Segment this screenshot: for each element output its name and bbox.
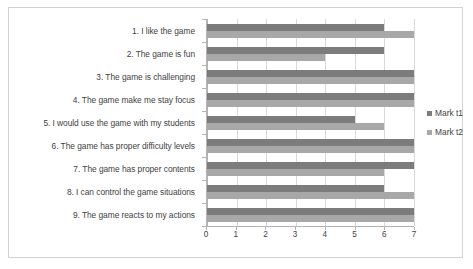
bar-t1 bbox=[207, 162, 414, 169]
bar-t2 bbox=[207, 54, 325, 61]
bar-group bbox=[207, 88, 414, 111]
bar-t1 bbox=[207, 24, 384, 31]
legend-item[interactable]: Mark t1 bbox=[427, 108, 473, 118]
bar-t2 bbox=[207, 169, 384, 176]
legend-item[interactable]: Mark t2 bbox=[427, 127, 473, 137]
legend-swatch-icon bbox=[427, 111, 432, 116]
bar-group bbox=[207, 42, 414, 65]
bar-t1 bbox=[207, 47, 384, 54]
bar-group bbox=[207, 157, 414, 180]
bar-t1 bbox=[207, 116, 355, 123]
bar-group bbox=[207, 203, 414, 226]
category-label: 6. The game has proper difficulty levels bbox=[11, 134, 200, 157]
chart-body: 1. I like the game2. The game is fun3. T… bbox=[9, 8, 462, 257]
bar-t1 bbox=[207, 70, 414, 77]
category-axis-labels: 1. I like the game2. The game is fun3. T… bbox=[11, 19, 200, 226]
category-label: 7. The game has proper contents bbox=[11, 157, 200, 180]
x-tick-label: 2 bbox=[263, 230, 268, 239]
x-tick-label: 3 bbox=[293, 230, 298, 239]
bar-t1 bbox=[207, 139, 414, 146]
x-tick-label: 0 bbox=[204, 230, 209, 239]
category-label: 8. I can control the game situations bbox=[11, 180, 200, 203]
bar-group bbox=[207, 65, 414, 88]
bar-t1 bbox=[207, 208, 414, 215]
bar-t2 bbox=[207, 192, 414, 199]
category-label: 9. The game reacts to my actions bbox=[11, 203, 200, 226]
gridline bbox=[414, 19, 415, 226]
chart-legend: Mark t1Mark t2 bbox=[427, 108, 473, 137]
x-tick-label: 4 bbox=[323, 230, 328, 239]
category-label: 3. The game is challenging bbox=[11, 65, 200, 88]
legend-swatch-icon bbox=[427, 130, 432, 135]
bar-t2 bbox=[207, 100, 414, 107]
bar-group bbox=[207, 134, 414, 157]
plot-area bbox=[206, 19, 414, 226]
bar-group bbox=[207, 19, 414, 42]
x-tick-label: 1 bbox=[233, 230, 238, 239]
category-label: 4. The game make me stay focus bbox=[11, 88, 200, 111]
x-tick-label: 5 bbox=[352, 230, 357, 239]
bar-t2 bbox=[207, 215, 414, 222]
bar-t2 bbox=[207, 77, 414, 84]
x-axis-tick-labels: 01234567 bbox=[206, 230, 414, 244]
category-label: 5. I would use the game with my students bbox=[11, 111, 200, 134]
bar-group bbox=[207, 111, 414, 134]
category-label: 1. I like the game bbox=[11, 19, 200, 42]
bar-t2 bbox=[207, 31, 414, 38]
bar-rows bbox=[207, 19, 414, 226]
legend-label: Mark t2 bbox=[435, 127, 463, 137]
bar-t2 bbox=[207, 123, 384, 130]
bar-t1 bbox=[207, 93, 414, 100]
category-label: 2. The game is fun bbox=[11, 42, 200, 65]
x-tick-label: 7 bbox=[412, 230, 417, 239]
bar-group bbox=[207, 180, 414, 203]
x-tick-label: 6 bbox=[382, 230, 387, 239]
legend-label: Mark t1 bbox=[435, 108, 463, 118]
bar-t2 bbox=[207, 146, 414, 153]
chart-frame: 1. I like the game2. The game is fun3. T… bbox=[8, 7, 463, 258]
bar-t1 bbox=[207, 185, 384, 192]
